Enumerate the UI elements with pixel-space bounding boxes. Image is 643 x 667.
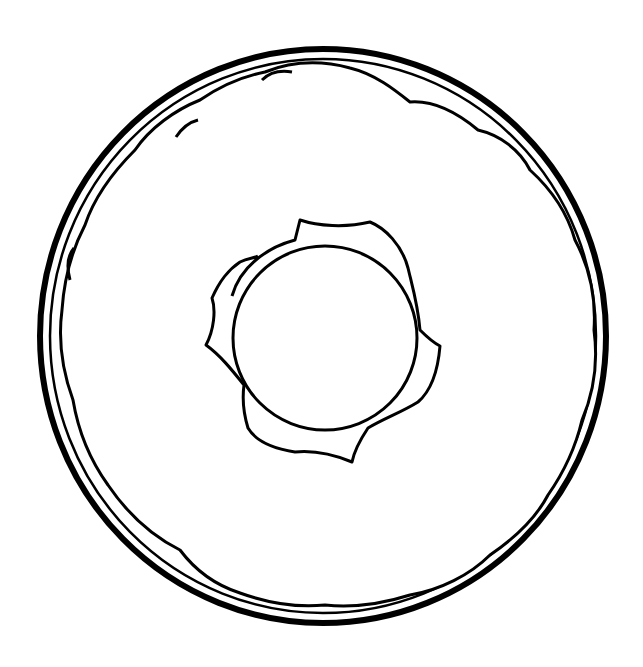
hole-opening xyxy=(233,246,417,430)
donut-illustration xyxy=(0,0,643,667)
donut-drawing xyxy=(0,0,643,667)
